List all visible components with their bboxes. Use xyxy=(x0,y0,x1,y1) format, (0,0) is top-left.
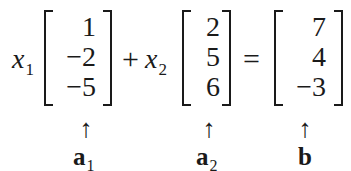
coefficient-x2: x2 xyxy=(145,45,167,73)
label-letter: b xyxy=(298,143,312,170)
label-subscript: 1 xyxy=(87,157,95,171)
entry: 1 xyxy=(56,12,96,42)
plus-sign: + xyxy=(122,44,139,74)
right-bracket xyxy=(334,10,343,106)
entry: −3 xyxy=(286,72,326,102)
variable-x: x xyxy=(145,43,157,74)
vector-a2-entries: 2 5 6 xyxy=(194,12,220,102)
up-arrow-icon: ↑ xyxy=(199,116,219,142)
label-letter: a xyxy=(73,143,86,170)
entry: 2 xyxy=(194,12,220,42)
subscript: 1 xyxy=(25,60,34,79)
vector-b-entries: 7 4 −3 xyxy=(286,12,326,102)
entry: 4 xyxy=(286,42,326,72)
variable-x: x xyxy=(12,43,24,74)
entry: −2 xyxy=(56,42,96,72)
label-subscript: 2 xyxy=(210,157,218,171)
entry: 7 xyxy=(286,12,326,42)
left-bracket xyxy=(182,10,191,106)
coefficient-x1: x1 xyxy=(12,45,34,73)
entry: 5 xyxy=(194,42,220,72)
up-arrow-icon: ↑ xyxy=(295,116,315,142)
equals-sign: = xyxy=(243,44,260,74)
label-b: b xyxy=(298,144,312,169)
label-letter: a xyxy=(196,143,209,170)
right-bracket xyxy=(103,10,112,106)
left-bracket xyxy=(274,10,283,106)
label-a1: a1 xyxy=(73,144,95,169)
up-arrow-icon: ↑ xyxy=(76,116,96,142)
entry: 6 xyxy=(194,72,220,102)
left-bracket xyxy=(44,10,53,106)
vector-a1-entries: 1 −2 −5 xyxy=(56,12,96,102)
subscript: 2 xyxy=(158,60,167,79)
label-a2: a2 xyxy=(196,144,218,169)
right-bracket xyxy=(222,10,231,106)
entry: −5 xyxy=(56,72,96,102)
